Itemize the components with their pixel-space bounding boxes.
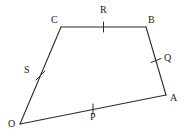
midpoint-tick-S bbox=[36, 71, 45, 80]
midpoint-label-P: P bbox=[90, 112, 96, 122]
midpoint-label-Q: Q bbox=[164, 53, 171, 63]
midpoint-label-R: R bbox=[100, 5, 107, 15]
geometry-figure: O C B A R Q P S bbox=[0, 0, 185, 138]
vertex-label-C: C bbox=[51, 15, 58, 25]
vertex-label-O: O bbox=[8, 119, 15, 129]
vertex-label-A: A bbox=[170, 93, 177, 103]
midpoint-label-S: S bbox=[24, 65, 30, 75]
vertex-label-B: B bbox=[148, 15, 155, 25]
